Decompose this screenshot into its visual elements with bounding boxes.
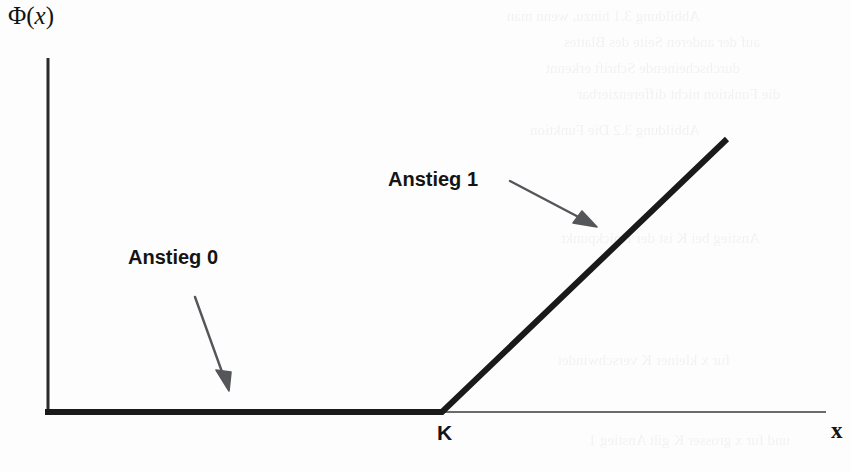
hinge-function-plot xyxy=(0,0,851,472)
function-curve xyxy=(45,139,727,412)
annotation-arrow-slope1 xyxy=(510,181,597,227)
y-axis-label-arg: x xyxy=(35,2,46,29)
kink-point-label: K xyxy=(437,421,452,445)
y-axis-label: Φ(x) xyxy=(8,2,54,30)
annotation-label-slope1: Anstieg 1 xyxy=(388,168,478,191)
y-axis-label-close: ) xyxy=(46,2,54,29)
annotation-arrow-slope0 xyxy=(195,297,231,391)
figure-page: Abbildung 3.1 hinzu, wenn man auf der an… xyxy=(0,0,851,472)
y-axis-label-phi: Φ( xyxy=(8,2,35,29)
x-axis-label: x xyxy=(831,418,843,444)
annotation-label-slope0: Anstieg 0 xyxy=(128,246,218,269)
